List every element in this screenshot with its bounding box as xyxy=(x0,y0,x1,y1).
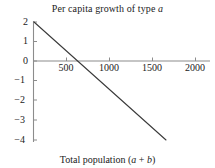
plot-area xyxy=(0,0,215,168)
x-axis-label-plus: + xyxy=(136,154,147,165)
x-tick-label-1000: 1000 xyxy=(92,63,126,73)
y-tick-label-0: 0 xyxy=(6,56,28,66)
x-axis-label-prefix: Total population ( xyxy=(60,154,132,165)
y-tick-label-neg2: −2 xyxy=(3,95,25,105)
x-axis-label: Total population (a + b) xyxy=(0,154,215,165)
chart-figure: Per capita growth of type a 2 1 0 −1 −2 … xyxy=(0,0,215,168)
growth-line xyxy=(34,22,166,140)
x-tick-label-500: 500 xyxy=(49,63,83,73)
y-tick-label-neg3: −3 xyxy=(3,115,25,125)
y-tick-label-neg4: −4 xyxy=(3,135,25,145)
y-tick-label-2: 2 xyxy=(6,17,28,27)
y-tick-label-1: 1 xyxy=(6,36,28,46)
x-tick-label-1500: 1500 xyxy=(135,63,169,73)
y-tick-label-neg1: −1 xyxy=(3,75,25,85)
x-tick-label-2000: 2000 xyxy=(178,63,212,73)
x-axis-label-suffix: ) xyxy=(152,154,155,165)
